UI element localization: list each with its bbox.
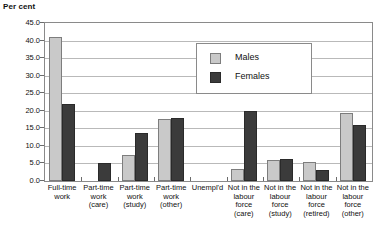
legend-swatch-females-icon — [210, 72, 221, 83]
x-axis-category-label-line: (study) — [262, 210, 298, 219]
x-axis-tick-mark — [81, 177, 82, 181]
x-axis-category-label: Part-timework(care) — [80, 184, 116, 210]
bar-group — [336, 23, 372, 181]
bar-group — [45, 23, 81, 181]
x-axis-category-label: Part-timework(study) — [117, 184, 153, 210]
y-axis-tick-label: 30.0 — [0, 70, 40, 79]
bar-group — [154, 23, 190, 181]
y-axis-tick-label: 15.0 — [0, 123, 40, 132]
x-axis-category-label: Not in thelabourforce(retired) — [298, 184, 334, 218]
x-axis-category-label-line: (other) — [153, 201, 189, 210]
x-axis-category-labels: Full-timeworkPart-timework(care)Part-tim… — [44, 184, 373, 234]
bar-females — [98, 163, 111, 181]
y-axis-tick-label: 35.0 — [0, 53, 40, 62]
x-axis-category-label: Not in thelabourforce(other) — [335, 184, 371, 218]
bar-females — [62, 104, 75, 181]
x-axis-tick-mark — [263, 177, 264, 181]
bar-males — [49, 37, 62, 181]
chart-legend: Males Females — [196, 43, 312, 94]
y-axis-tick-label: 25.0 — [0, 88, 40, 97]
y-axis-tick-label: 5.0 — [0, 158, 40, 167]
bar-females — [135, 133, 148, 181]
x-axis-category-label-line: Unempl'd — [189, 184, 225, 193]
x-axis-tick-mark — [118, 177, 119, 181]
bar-females — [244, 111, 257, 181]
x-axis-tick-mark — [190, 177, 191, 181]
y-axis-tick-label: 0.0 — [0, 176, 40, 185]
x-axis-category-label-line: work — [44, 193, 80, 202]
x-axis-tick-mark — [299, 177, 300, 181]
bar-group — [81, 23, 117, 181]
y-axis-title: Per cent — [3, 2, 35, 11]
chart-figure: Per cent 45.040.035.030.025.020.015.010.… — [0, 0, 379, 236]
x-axis-tick-mark — [154, 177, 155, 181]
bar-females — [171, 118, 184, 181]
x-axis-category-label-line: (care) — [80, 201, 116, 210]
bar-females — [353, 125, 366, 181]
x-axis-category-label: Unempl'd — [189, 184, 225, 193]
x-axis-category-label-line: (retired) — [298, 210, 334, 219]
y-axis-tick-label: 20.0 — [0, 105, 40, 114]
y-axis-tick-label: 10.0 — [0, 140, 40, 149]
bar-males — [267, 160, 280, 181]
x-axis-tick-mark — [227, 177, 228, 181]
bar-group — [118, 23, 154, 181]
legend-label-males: Males — [235, 52, 259, 62]
x-axis-category-label: Full-timework — [44, 184, 80, 201]
bar-males — [340, 113, 353, 181]
x-axis-category-label-line: (study) — [117, 201, 153, 210]
y-axis-tick-label: 40.0 — [0, 35, 40, 44]
bar-females — [280, 159, 293, 181]
x-axis-category-label: Not in thelabourforce(study) — [262, 184, 298, 218]
bar-males — [231, 169, 244, 181]
bar-males — [122, 155, 135, 181]
y-axis-tick-label: 45.0 — [0, 18, 40, 27]
x-axis-category-label: Part-timework(other) — [153, 184, 189, 210]
x-axis-tick-mark — [336, 177, 337, 181]
x-axis-category-label: Not in thelabourforce(care) — [226, 184, 262, 218]
legend-swatch-males-icon — [210, 53, 221, 64]
bar-males — [158, 119, 171, 181]
legend-label-females: Females — [235, 71, 270, 81]
x-axis-category-label-line: (care) — [226, 210, 262, 219]
bar-females — [316, 170, 329, 181]
bar-males — [303, 162, 316, 181]
x-axis-category-label-line: (other) — [335, 210, 371, 219]
